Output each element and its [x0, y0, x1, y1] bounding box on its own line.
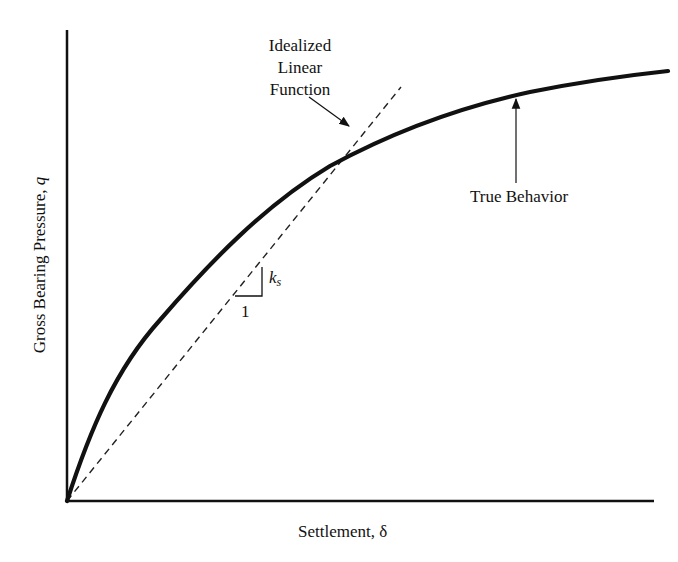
- slope-k: k: [269, 268, 277, 287]
- slope-triangle: [235, 267, 262, 296]
- idealized-linear-line: [67, 87, 401, 501]
- true-behavior-label: True Behavior: [470, 187, 568, 207]
- slope-run-label: 1: [241, 302, 250, 322]
- idealized-label-line3: Function: [245, 80, 355, 100]
- idealized-label-line1: Idealized: [245, 36, 355, 56]
- slope-ks-label: ks: [269, 268, 281, 290]
- x-axis-label: Settlement, δ: [298, 522, 387, 542]
- figure: Idealized Linear Function True Behavior …: [0, 0, 678, 562]
- idealized-label-line2: Linear: [245, 58, 355, 78]
- y-axis-label-text: Gross Bearing Pressure,: [30, 185, 49, 353]
- true-behavior-curve: [67, 71, 668, 501]
- y-axis-label-var: q: [30, 177, 49, 186]
- slope-subscript: s: [277, 275, 282, 289]
- idealized-arrow: [309, 97, 349, 126]
- y-axis-label: Gross Bearing Pressure, q: [30, 177, 50, 354]
- idealized-label: Idealized Linear Function: [245, 36, 355, 100]
